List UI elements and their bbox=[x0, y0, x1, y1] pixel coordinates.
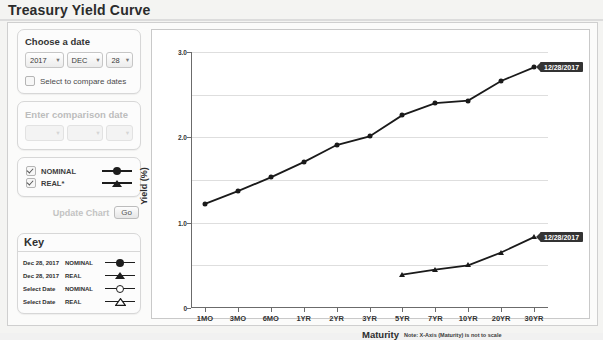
x-tick-label: 1YR bbox=[296, 314, 311, 323]
plot-area: 12/28/201712/28/2017 01.02.03.01MO3MO6MO… bbox=[191, 52, 548, 308]
go-button[interactable]: Go bbox=[114, 206, 139, 219]
x-tick-mark bbox=[238, 308, 239, 312]
y-tick-mark bbox=[187, 223, 191, 224]
chevron-down-icon: ▼ bbox=[93, 57, 102, 63]
series-line-real bbox=[402, 237, 534, 275]
data-point[interactable] bbox=[465, 262, 471, 267]
key-series: REAL bbox=[65, 299, 105, 305]
key-date: Select Date bbox=[23, 299, 65, 305]
series-annotation-tooltip: 12/28/2017 bbox=[540, 62, 583, 72]
compare-dates-row[interactable]: Select to compare dates bbox=[25, 76, 133, 86]
x-axis-label: Maturity bbox=[362, 329, 399, 340]
key-row: Dec 28, 2017 NOMINAL bbox=[23, 256, 135, 269]
x-tick-label: 6MO bbox=[263, 314, 279, 323]
key-date: Dec 28, 2017 bbox=[23, 260, 65, 266]
comparison-year-select: ▼ bbox=[25, 125, 64, 141]
chevron-down-icon: ▼ bbox=[123, 57, 132, 63]
nominal-checkbox[interactable] bbox=[26, 166, 36, 176]
y-axis-label: Yield (%) bbox=[139, 167, 149, 205]
comparison-month-select: ▼ bbox=[67, 125, 104, 141]
key-date: Dec 28, 2017 bbox=[23, 273, 65, 279]
series-toggle-card: NOMINAL REAL* bbox=[17, 157, 141, 197]
month-select[interactable]: DEC ▼ bbox=[67, 52, 104, 68]
x-tick-mark bbox=[271, 308, 272, 312]
x-tick-mark bbox=[370, 308, 371, 312]
x-tick-mark bbox=[402, 308, 403, 312]
data-point[interactable] bbox=[268, 175, 273, 180]
nominal-label: NOMINAL bbox=[41, 167, 102, 176]
data-point[interactable] bbox=[334, 143, 339, 148]
y-tick-label: 3.0 bbox=[178, 49, 187, 56]
date-select-row: 2017 ▼ DEC ▼ 28 ▼ bbox=[25, 52, 133, 68]
chevron-down-icon: ▼ bbox=[93, 130, 102, 136]
series-toggle-real[interactable]: REAL* bbox=[26, 178, 132, 188]
data-point[interactable] bbox=[498, 250, 504, 255]
day-value: 28 bbox=[111, 56, 123, 65]
app-panel: Choose a date 2017 ▼ DEC ▼ 28 ▼ bbox=[7, 22, 598, 326]
data-point[interactable] bbox=[400, 113, 405, 118]
comparison-date-label: Enter comparison date bbox=[25, 109, 133, 120]
choose-date-label: Choose a date bbox=[25, 36, 133, 47]
chart-panel: Yield (%) 12/28/201712/28/2017 01.02.03.… bbox=[151, 29, 590, 319]
data-point[interactable] bbox=[432, 267, 438, 272]
compare-dates-label: Select to compare dates bbox=[40, 77, 126, 86]
x-tick-label: 20YR bbox=[492, 314, 511, 323]
real-checkbox[interactable] bbox=[26, 178, 36, 188]
compare-dates-checkbox[interactable] bbox=[25, 76, 35, 86]
x-tick-mark bbox=[468, 308, 469, 312]
choose-date-card: Choose a date 2017 ▼ DEC ▼ 28 ▼ bbox=[17, 29, 141, 94]
key-row: Dec 28, 2017 REAL bbox=[23, 269, 135, 282]
comparison-date-card: Enter comparison date ▼ ▼ ▼ bbox=[17, 101, 141, 150]
data-point[interactable] bbox=[466, 98, 471, 103]
x-tick-mark bbox=[435, 308, 436, 312]
nominal-marker-icon bbox=[102, 167, 132, 175]
filled-triangle-icon bbox=[105, 272, 135, 280]
data-point[interactable] bbox=[499, 79, 504, 84]
year-value: 2017 bbox=[30, 56, 54, 65]
series-toggle-nominal[interactable]: NOMINAL bbox=[26, 166, 132, 176]
page-title: Treasury Yield Curve bbox=[8, 2, 151, 18]
data-point[interactable] bbox=[433, 101, 438, 106]
series-annotation-tooltip: 12/28/2017 bbox=[540, 232, 583, 242]
real-marker-icon bbox=[102, 179, 132, 187]
month-value: DEC bbox=[72, 56, 94, 65]
comparison-day-select: ▼ bbox=[106, 125, 133, 141]
x-tick-label: 7YR bbox=[428, 314, 443, 323]
chevron-down-icon: ▼ bbox=[54, 57, 63, 63]
day-select[interactable]: 28 ▼ bbox=[106, 52, 133, 68]
x-tick-label: 5YR bbox=[395, 314, 410, 323]
y-tick-mark bbox=[187, 137, 191, 138]
key-panel: Key Dec 28, 2017 NOMINAL Dec 28, 2017 RE… bbox=[17, 233, 141, 314]
x-tick-label: 30YR bbox=[525, 314, 544, 323]
data-point[interactable] bbox=[301, 160, 306, 165]
x-tick-mark bbox=[534, 308, 535, 312]
y-tick-label: 2.0 bbox=[178, 134, 187, 141]
data-point[interactable] bbox=[235, 189, 240, 194]
x-tick-mark bbox=[205, 308, 206, 312]
comparison-select-row: ▼ ▼ ▼ bbox=[25, 125, 133, 141]
data-point[interactable] bbox=[203, 201, 208, 206]
key-series: NOMINAL bbox=[65, 260, 105, 266]
y-axis-label-wrap: Yield (%) bbox=[165, 180, 177, 192]
key-series: REAL bbox=[65, 273, 105, 279]
chevron-down-icon: ▼ bbox=[54, 130, 63, 136]
x-tick-label: 10YR bbox=[459, 314, 478, 323]
x-tick-mark bbox=[337, 308, 338, 312]
chevron-down-icon: ▼ bbox=[123, 130, 132, 136]
real-label: REAL* bbox=[41, 179, 102, 188]
data-point[interactable] bbox=[367, 134, 372, 139]
update-chart-label: Update Chart bbox=[53, 208, 110, 218]
x-tick-mark bbox=[501, 308, 502, 312]
open-triangle-icon bbox=[105, 298, 135, 306]
title-divider bbox=[0, 19, 603, 21]
data-point[interactable] bbox=[399, 272, 405, 277]
key-row: Select Date NOMINAL bbox=[23, 282, 135, 295]
key-header: Key bbox=[18, 234, 140, 252]
series-lines bbox=[191, 52, 548, 308]
key-date: Select Date bbox=[23, 286, 65, 292]
year-select[interactable]: 2017 ▼ bbox=[25, 52, 64, 68]
y-tick-mark bbox=[187, 308, 191, 309]
key-series: NOMINAL bbox=[65, 286, 105, 292]
filled-circle-icon bbox=[105, 259, 135, 267]
